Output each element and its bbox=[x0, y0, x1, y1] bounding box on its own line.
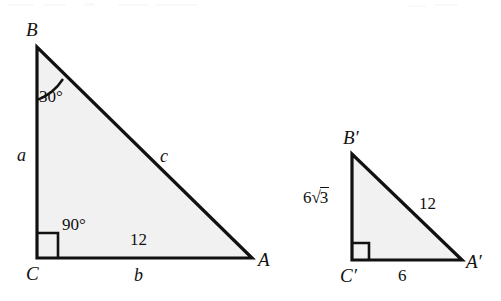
vertex-label-A: A bbox=[258, 250, 270, 269]
side-label-c: c bbox=[160, 147, 168, 165]
side-measure-label-12-small: 12 bbox=[419, 195, 436, 212]
radicand: 3 bbox=[320, 187, 330, 207]
angle-label-90-deg: 90° bbox=[62, 216, 86, 233]
radical-coefficient: 6 bbox=[303, 188, 312, 207]
side-measure-label-6: 6 bbox=[398, 267, 407, 284]
side-measure-label-6-root-3: 6√3 bbox=[303, 189, 329, 206]
side-label-b: b bbox=[134, 266, 143, 284]
vertex-label-A-prime: A′ bbox=[466, 252, 482, 271]
vertex-label-C: C bbox=[26, 264, 39, 283]
side-measure-label-12-large: 12 bbox=[130, 231, 147, 248]
vertex-label-B-prime: B′ bbox=[343, 128, 359, 147]
side-label-a: a bbox=[17, 146, 26, 164]
angle-label-30-deg: 30° bbox=[39, 88, 63, 105]
figure-canvas: B 30° a c 90° 12 C b A B′ 6√3 12 C′ 6 A′ bbox=[0, 0, 501, 301]
geometry-drawing bbox=[0, 0, 501, 301]
vertex-label-C-prime: C′ bbox=[340, 266, 357, 285]
vertex-label-B: B bbox=[26, 20, 38, 39]
